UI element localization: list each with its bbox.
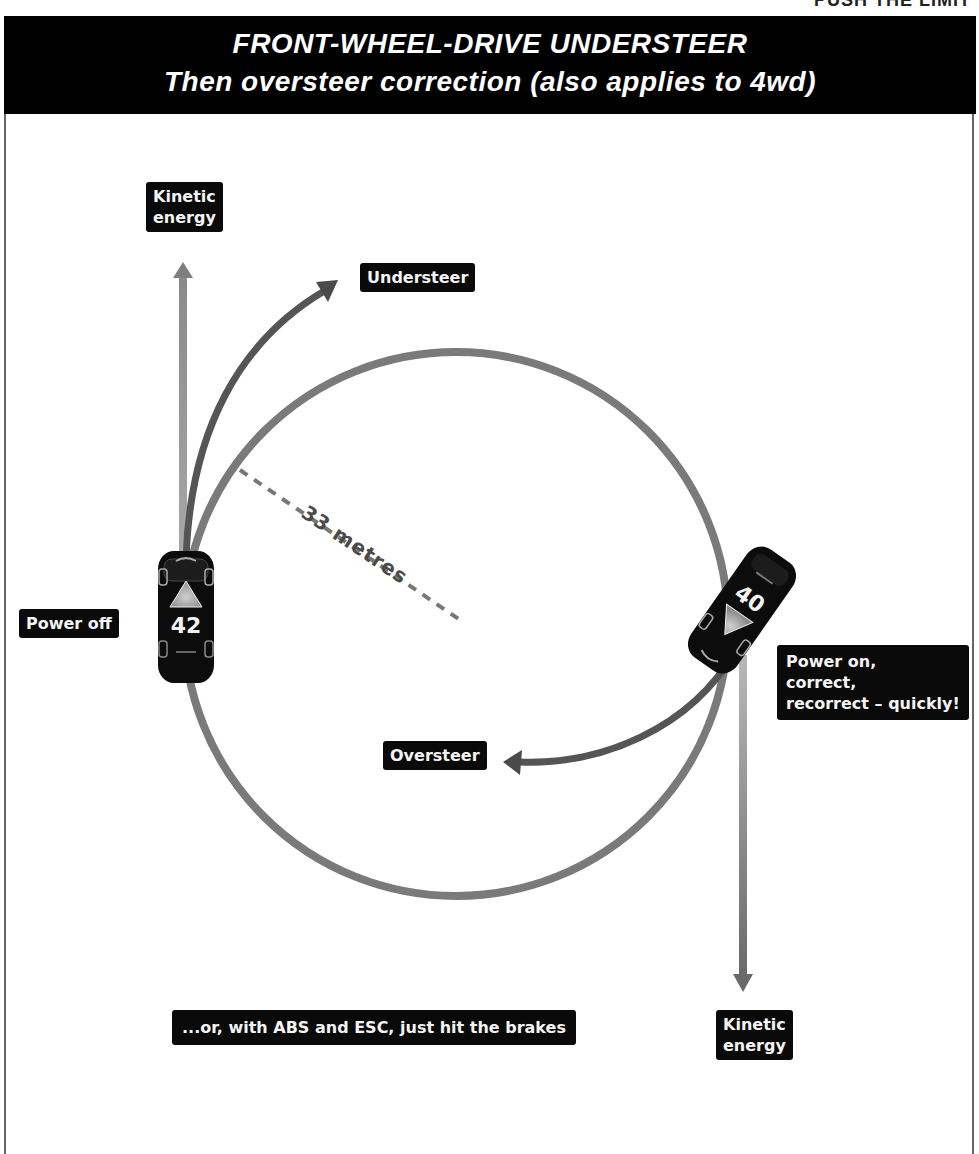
label-understeer: Understeer bbox=[360, 263, 475, 292]
label-power-off: Power off bbox=[19, 609, 119, 638]
oversteer-arrow-icon bbox=[503, 650, 736, 775]
label-kinetic-energy-bottom: Kinetic energy bbox=[716, 1010, 793, 1060]
label-oversteer: Oversteer bbox=[383, 741, 487, 770]
label-kinetic-energy-top: Kinetic energy bbox=[146, 182, 223, 232]
label-power-on-correct: Power on, correct, recorrect – quickly! bbox=[777, 645, 969, 720]
radius-label: 33 metres bbox=[297, 500, 412, 589]
label-abs-esc: ...or, with ABS and ESC, just hit the br… bbox=[172, 1010, 576, 1045]
driving-circle bbox=[184, 352, 728, 896]
car-left-number: 42 bbox=[171, 613, 202, 638]
kinetic-arrow-down-icon bbox=[733, 655, 753, 992]
car-left-icon: 42 bbox=[158, 551, 214, 683]
